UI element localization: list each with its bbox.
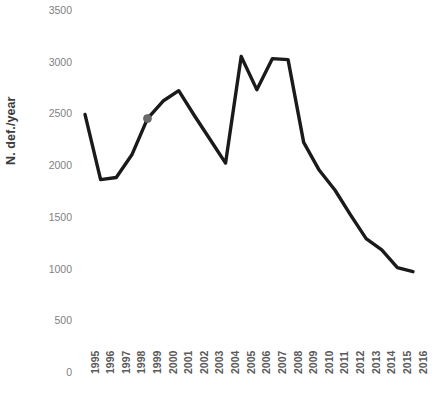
x-axis-tick-label: 2004 [230, 334, 241, 374]
x-axis-tick-label: 1995 [90, 334, 101, 374]
x-axis-tick-label: 2011 [339, 334, 350, 374]
x-axis-tick-label: 1998 [136, 334, 147, 374]
x-axis-tick-label: 1997 [121, 334, 132, 374]
x-axis-tick-label: 2008 [293, 334, 304, 374]
x-axis-tick-label: 2002 [199, 334, 210, 374]
x-axis-tick-labels: 1995199619971998199920002001200220032004… [0, 0, 435, 419]
x-axis-tick-label: 2005 [246, 334, 257, 374]
x-axis-tick-label: 2010 [324, 334, 335, 374]
x-axis-tick-label: 2007 [277, 334, 288, 374]
line-chart: N. def./year 350030002500200015001000500… [0, 0, 435, 419]
x-axis-tick-label: 2009 [308, 334, 319, 374]
x-axis-tick-label: 2014 [386, 334, 397, 374]
x-axis-tick-label: 2013 [371, 334, 382, 374]
x-axis-tick-label: 2015 [402, 334, 413, 374]
x-axis-tick-label: 2016 [418, 334, 429, 374]
x-axis-tick-label: 2012 [355, 334, 366, 374]
x-axis-tick-label: 2006 [261, 334, 272, 374]
x-axis-tick-label: 2000 [168, 334, 179, 374]
x-axis-tick-label: 1996 [105, 334, 116, 374]
x-axis-tick-label: 2003 [214, 334, 225, 374]
x-axis-tick-label: 2001 [183, 334, 194, 374]
x-axis-tick-label: 1999 [152, 334, 163, 374]
